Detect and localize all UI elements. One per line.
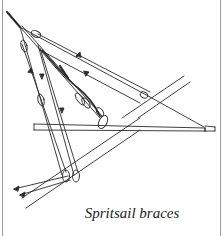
stay-seizing — [42, 50, 105, 118]
lower-blocks — [14, 170, 80, 197]
figure-caption: Spritsail braces — [0, 205, 224, 222]
upper-braces — [20, 27, 150, 103]
rigging-illustration — [0, 0, 224, 236]
lower-spar — [22, 114, 140, 208]
hanging-braces — [20, 27, 78, 175]
spritsail-yard — [34, 97, 215, 131]
